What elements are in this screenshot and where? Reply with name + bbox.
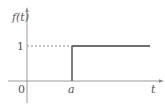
level-label: 1 <box>17 40 24 53</box>
origin-label: 0 <box>18 83 25 96</box>
x-axis-arrow-icon <box>159 79 164 82</box>
y-axis-label: f(t) <box>11 11 29 24</box>
step-function-diagram: f(t) 1 0 a t <box>0 0 165 110</box>
x-axis-label: t <box>151 83 156 96</box>
step-label: a <box>68 83 75 96</box>
